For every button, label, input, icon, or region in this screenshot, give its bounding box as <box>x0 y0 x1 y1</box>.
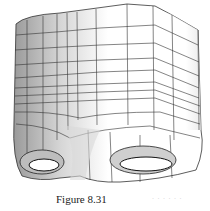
wireframe-mesh-illustration <box>0 0 210 211</box>
left-eye-opening <box>29 159 59 171</box>
figure-caption: Figure 8.31 <box>56 193 107 205</box>
right-eye-opening <box>120 157 172 171</box>
faint-text: · · · · · · <box>152 196 183 202</box>
